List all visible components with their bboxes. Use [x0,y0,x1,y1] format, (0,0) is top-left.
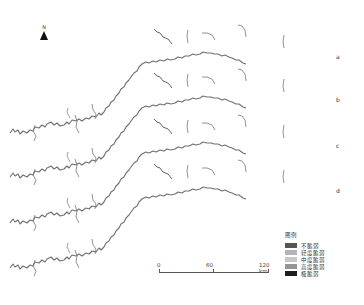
panel-label-d: d [336,187,340,194]
river-panel-c [10,115,284,231]
scale-tick-0: 0 [157,262,161,268]
legend-title: 图例 [285,231,325,239]
legend-label: 极脆弱 [301,270,319,278]
scale-bar: 0 60 120 km [157,262,277,278]
north-arrow-icon [40,31,48,40]
scale-line [159,272,269,273]
river-panel-a [10,25,284,141]
legend-swatch [285,257,297,262]
north-arrow: N [38,24,50,40]
north-label: N [38,24,50,30]
legend-swatch [285,250,297,255]
river-panel-d [10,160,284,276]
scale-tick-60: 60 [206,262,213,268]
legend-item: 极脆弱 [285,270,325,277]
scale-tick-mark [159,269,160,273]
scale-tick-mark [213,269,214,273]
legend-swatch [285,243,297,248]
legend: 图例 不脆弱 轻度脆弱 中度脆弱 高度脆弱 极脆弱 [285,231,325,277]
panel-label-a: a [336,53,340,60]
scale-tick-mark [268,269,269,273]
panel-label-c: c [336,142,339,149]
legend-swatch [285,271,297,276]
panel-label-b: b [336,96,340,103]
river-panel-b [10,69,284,185]
legend-swatch [285,264,297,269]
